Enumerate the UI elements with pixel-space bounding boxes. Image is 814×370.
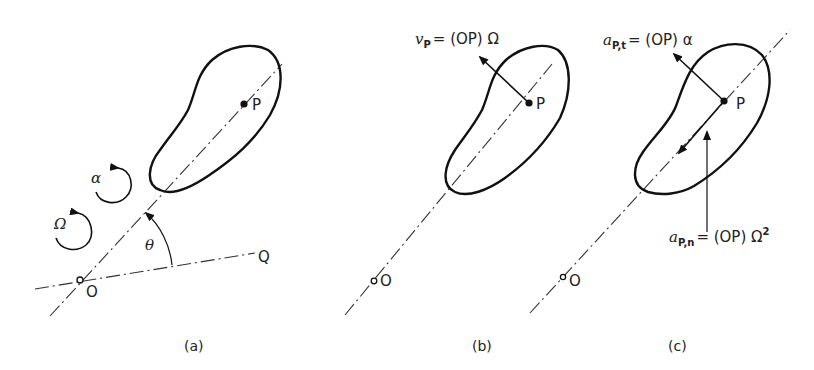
tangential-accel-label-c: aP,t= (OP) α <box>603 31 693 51</box>
point-p-dot-c <box>720 97 727 104</box>
point-p-dot-a <box>240 100 247 107</box>
alpha-label: α <box>91 169 101 187</box>
caption-c: (c) <box>668 338 687 354</box>
panel-a: P O Q θ α Ω (a) <box>35 46 282 354</box>
point-o-pivot-b <box>371 278 377 284</box>
alpha-rotation-arrow <box>96 168 131 203</box>
point-p-label-b: P <box>536 95 545 113</box>
normal-accel-vector-c <box>679 101 724 153</box>
omega-label: Ω <box>53 215 66 233</box>
point-p-label-a: P <box>252 96 261 114</box>
theta-label: θ <box>145 236 154 254</box>
normal-accel-label-c: aP,n= (OP) Ω2 <box>669 226 770 248</box>
point-p-label-c: P <box>736 95 745 113</box>
rigid-body-c <box>635 44 770 194</box>
point-o-label-a: O <box>86 283 98 301</box>
point-p-dot-b <box>525 99 532 106</box>
point-o-label-c: O <box>569 272 581 290</box>
rigid-body-a <box>150 46 281 192</box>
caption-b: (b) <box>472 338 492 354</box>
panel-b: P O vP= (OP) Ω (b) <box>345 30 569 354</box>
axis-op-b <box>345 64 552 315</box>
point-q-label-a: Q <box>258 248 270 266</box>
rigid-body-b <box>446 46 569 194</box>
axis-oq-a <box>35 253 255 289</box>
axis-op-a <box>50 64 282 316</box>
caption-a: (a) <box>184 338 204 354</box>
point-o-pivot-a <box>77 277 83 283</box>
point-o-label-b: O <box>380 272 392 290</box>
velocity-label-b: vP= (OP) Ω <box>415 30 499 50</box>
rigid-body-rotation-diagram: P O Q θ α Ω (a) P O vP= (OP) Ω (b) P O <box>0 0 814 370</box>
point-o-pivot-c <box>560 274 565 279</box>
